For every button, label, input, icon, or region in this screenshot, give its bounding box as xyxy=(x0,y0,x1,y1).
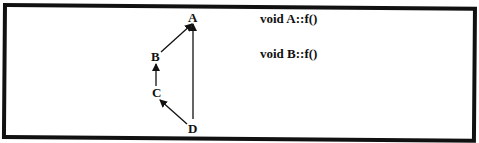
node-a: A xyxy=(188,11,197,24)
edge-b-to-a xyxy=(161,24,192,52)
node-c: C xyxy=(152,86,161,99)
edge-d-to-c xyxy=(160,100,187,124)
inheritance-graph xyxy=(0,0,479,143)
node-b: B xyxy=(151,50,160,63)
node-d: D xyxy=(188,122,197,135)
code-line-a-f: void A::f() xyxy=(260,11,317,27)
code-line-b-f: void B::f() xyxy=(260,46,317,62)
